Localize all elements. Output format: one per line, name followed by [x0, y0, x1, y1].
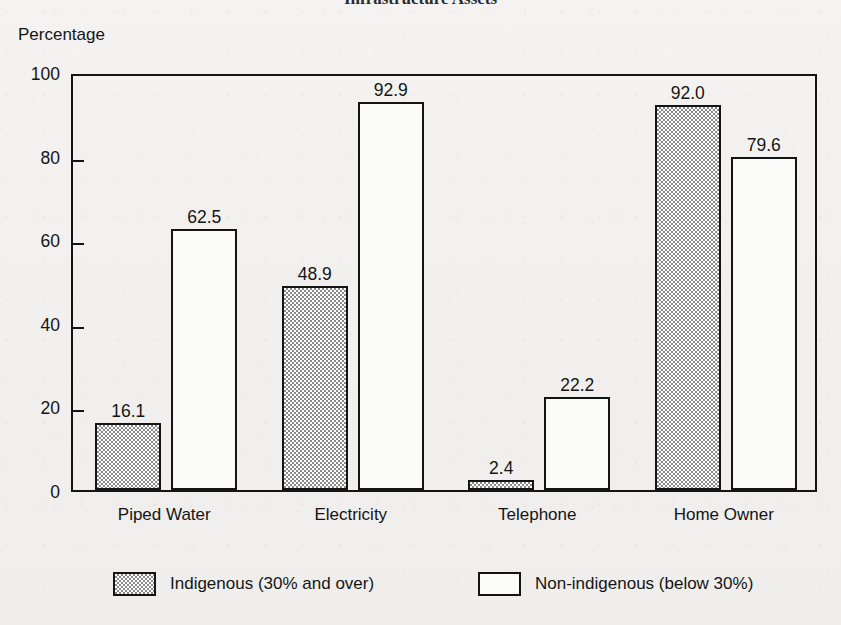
bar-value-label: 22.2	[560, 375, 594, 396]
bar-value-label: 2.4	[489, 458, 513, 479]
bar-value-label: 16.1	[111, 401, 145, 422]
bar-value-label: 62.5	[187, 207, 221, 228]
y-axis-label-40: 40	[41, 314, 60, 335]
bar-home-owner-non-indigenous	[731, 157, 797, 490]
bar-telephone-indigenous	[468, 480, 534, 490]
bar-value-label: 48.9	[298, 264, 332, 285]
legend-entry-non-indigenous: Non-indigenous (below 30%)	[478, 572, 753, 596]
bar-home-owner-indigenous	[655, 105, 721, 490]
bar-telephone-non-indigenous	[544, 397, 610, 490]
y-axis-label-80: 80	[41, 147, 60, 168]
y-axis-tick-60	[73, 243, 84, 245]
bar-value-label: 79.6	[747, 135, 781, 156]
x-axis-label-home-owner: Home Owner	[674, 505, 774, 525]
x-axis-label-telephone: Telephone	[498, 505, 576, 525]
y-axis-label-100: 100	[31, 64, 60, 85]
y-axis-tick-40	[73, 327, 84, 329]
y-axis-label-60: 60	[41, 231, 60, 252]
plot-area: 16.162.548.992.92.422.292.079.6	[71, 74, 817, 492]
bar-value-label: 92.0	[671, 83, 705, 104]
y-axis-label-0: 0	[50, 482, 60, 503]
legend-entry-indigenous: Indigenous (30% and over)	[113, 572, 374, 596]
bar-value-label: 92.9	[374, 80, 408, 101]
y-axis-tick-20	[73, 410, 84, 412]
x-axis-label-piped-water: Piped Water	[118, 505, 211, 525]
y-axis-label-20: 20	[41, 398, 60, 419]
y-axis-tick-80	[73, 160, 84, 162]
plot-inner: 16.162.548.992.92.422.292.079.6	[73, 76, 815, 490]
legend-swatch-open	[478, 572, 521, 596]
y-axis-title: Percentage	[18, 25, 105, 45]
bar-electricity-non-indigenous	[358, 102, 424, 490]
legend-label-indigenous: Indigenous (30% and over)	[170, 574, 374, 594]
x-axis-label-electricity: Electricity	[314, 505, 387, 525]
legend-label-non-indigenous: Non-indigenous (below 30%)	[535, 574, 753, 594]
figure-title-cropped: Infrastructure Assets	[0, 0, 841, 9]
legend-swatch-shaded	[113, 572, 156, 596]
bar-piped-water-indigenous	[95, 423, 161, 490]
figure-title-text: Infrastructure Assets	[344, 0, 497, 9]
y-axis-tick-labels: 020406080100	[0, 74, 60, 492]
page-showthrough-bottom	[30, 546, 36, 563]
bar-piped-water-non-indigenous	[171, 229, 237, 490]
bar-electricity-indigenous	[282, 286, 348, 490]
